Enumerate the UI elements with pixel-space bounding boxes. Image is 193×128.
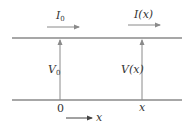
voltage-label-x: V(x) bbox=[121, 64, 144, 75]
diagram-graphics bbox=[0, 0, 193, 128]
transmission-line-diagram: I0 I(x) V0 V(x) 0 x x bbox=[0, 0, 193, 128]
axis-direction-label: x bbox=[96, 112, 102, 123]
position-label-x: x bbox=[139, 102, 145, 113]
current-label-x: I(x) bbox=[134, 9, 153, 20]
position-label-zero: 0 bbox=[57, 103, 64, 114]
voltage-label-start: V0 bbox=[48, 64, 60, 77]
current-label-start: I0 bbox=[56, 10, 65, 23]
